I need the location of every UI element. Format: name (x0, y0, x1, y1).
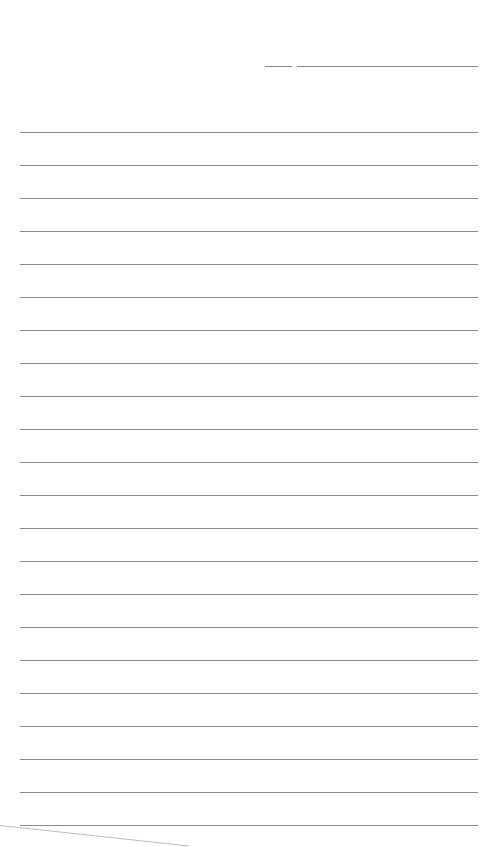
ruled-line (20, 759, 478, 760)
ruled-line (20, 726, 478, 727)
ruled-line (20, 165, 478, 166)
ruled-line (20, 198, 478, 199)
ruled-line (20, 363, 478, 364)
ruled-line (20, 264, 478, 265)
ruled-line (20, 561, 478, 562)
header-long-line (297, 66, 478, 67)
ruled-line (20, 396, 478, 397)
header-short-line (265, 66, 292, 67)
ruled-line (20, 693, 478, 694)
ruled-line (20, 297, 478, 298)
ruled-line (20, 330, 478, 331)
ruled-line (20, 825, 478, 826)
ruled-line (20, 528, 478, 529)
ruled-line (20, 462, 478, 463)
ruled-line (20, 132, 478, 133)
ruled-line (20, 594, 478, 595)
ruled-line (20, 231, 478, 232)
ruled-line (20, 627, 478, 628)
ruled-line (20, 660, 478, 661)
ruled-line (20, 792, 478, 793)
ruled-line (20, 429, 478, 430)
paper-edge (0, 825, 189, 847)
ruled-line (20, 495, 478, 496)
